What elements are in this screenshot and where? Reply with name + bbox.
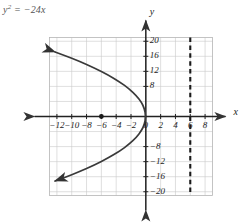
y-axis-label: y — [150, 6, 154, 17]
coordinate-plane — [0, 0, 243, 223]
y-tick-label: −12 — [150, 156, 165, 166]
y-tick-label: −16 — [150, 171, 165, 181]
x-tick-label: 8 — [194, 120, 216, 130]
x-axis-label: x — [234, 106, 238, 117]
focus-point — [99, 114, 104, 119]
y-tick-label: −20 — [150, 186, 165, 196]
axes — [35, 21, 226, 211]
y-tick-label: −8 — [150, 141, 161, 151]
y-tick-label: 16 — [150, 50, 159, 60]
y-tick-label: 8 — [150, 80, 155, 90]
y-tick-label: 20 — [150, 35, 159, 45]
y-tick-label: 12 — [150, 65, 159, 75]
parabola-figure: y2 = −24x −12−10−8−6−4−202468−20−16−12−8… — [0, 0, 243, 223]
